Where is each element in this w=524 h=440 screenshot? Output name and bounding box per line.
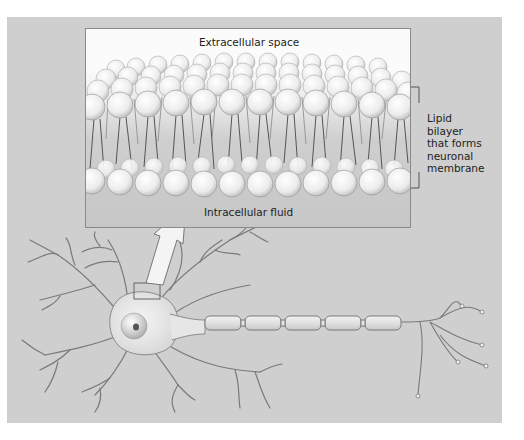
lipid-bilayer-callout-label: Lipid bilayer that forms neuronal membra… [427, 112, 484, 175]
extracellular-space-label: Extracellular space [86, 36, 411, 48]
callout-line: bilayer [427, 125, 484, 138]
intracellular-fluid-label: Intracellular fluid [204, 206, 293, 218]
callout-line: membrane [427, 162, 484, 175]
callout-line: Lipid [427, 112, 484, 125]
lipid-bilayer [86, 29, 411, 228]
axon-terminals [401, 302, 486, 395]
myelin-sheath [205, 316, 401, 330]
callout-line: that forms [427, 137, 484, 150]
nucleolus [133, 324, 139, 331]
callout-bracket [411, 87, 419, 188]
callout-line: neuronal [427, 150, 484, 163]
lipid-bilayer-inset: Extracellular space Intracellular fluid [85, 28, 411, 228]
